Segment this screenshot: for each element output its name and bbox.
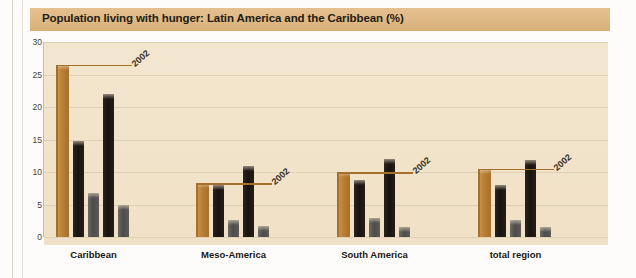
gridline-20 — [44, 107, 608, 108]
bar-total-region-grey-2 — [540, 227, 551, 237]
bar-meso-america-tan — [198, 183, 209, 237]
bar-caribbean-black-2 — [103, 94, 114, 237]
bar-total-region-grey-1 — [510, 220, 521, 237]
bar-caribbean-grey-1 — [88, 193, 99, 237]
category-label-caribbean: Caribbean — [32, 249, 155, 260]
bar-south-america-grey-1 — [369, 218, 380, 237]
gridline-30 — [44, 42, 608, 43]
bar-total-region-black-2 — [525, 160, 536, 237]
gridline-15 — [44, 140, 608, 141]
bar-caribbean-grey-2 — [118, 205, 129, 238]
bar-total-region-tan — [480, 169, 491, 237]
callout-label-2002: 2002 — [552, 152, 574, 173]
y-tick-30: 30 — [22, 37, 42, 47]
bar-south-america-black-2 — [384, 159, 395, 237]
y-tick-25: 25 — [22, 70, 42, 80]
category-label-meso-america: Meso-America — [172, 249, 295, 260]
bar-meso-america-grey-2 — [258, 226, 269, 237]
bar-meso-america-black-1 — [213, 185, 224, 237]
chart-title-bar: Population living with hunger: Latin Ame… — [30, 8, 610, 31]
y-tick-10: 10 — [22, 167, 42, 177]
bar-caribbean-tan — [58, 65, 69, 237]
y-tick-5: 5 — [22, 200, 42, 210]
chart-plot-area: 2002200220022002 — [44, 42, 608, 245]
bar-south-america-grey-2 — [399, 227, 410, 237]
bar-meso-america-grey-1 — [228, 220, 239, 237]
page-title: Population living with hunger: Latin Ame… — [42, 12, 404, 24]
gridline-0 — [44, 237, 608, 238]
y-tick-0: 0 — [22, 232, 42, 242]
category-label-total-region: total region — [454, 249, 577, 260]
callout-label-2002: 2002 — [270, 166, 292, 187]
callout-label-2002: 2002 — [130, 48, 152, 69]
page-margin-rule — [12, 0, 13, 278]
gridline-10 — [44, 172, 608, 173]
bar-meso-america-black-2 — [243, 166, 254, 238]
y-tick-15: 15 — [22, 135, 42, 145]
bar-caribbean-black-1 — [73, 141, 84, 237]
gridline-25 — [44, 75, 608, 76]
category-label-south-america: South America — [313, 249, 436, 260]
bar-total-region-black-1 — [495, 185, 506, 237]
bar-south-america-black-1 — [354, 180, 365, 237]
y-tick-20: 20 — [22, 102, 42, 112]
bar-south-america-tan — [339, 172, 350, 237]
